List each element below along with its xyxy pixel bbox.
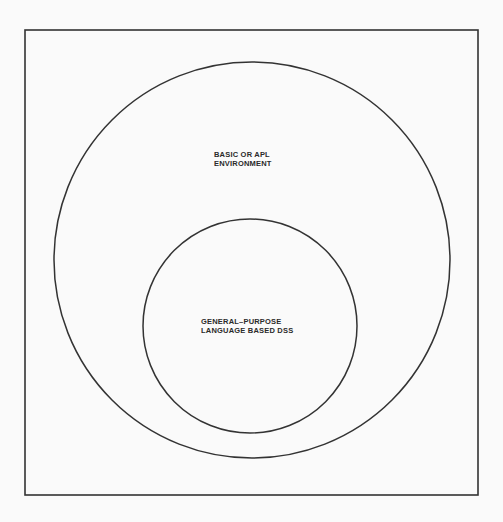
nested-circles-diagram: BASIC OR APL ENVIRONMENT GENERAL–PURPOSE… [0,0,503,522]
inner-label-line-2: LANGUAGE BASED DSS [201,326,293,335]
outer-label-line-1: BASIC OR APL [214,150,270,159]
inner-label-line-1: GENERAL–PURPOSE [201,317,282,326]
outer-label-line-2: ENVIRONMENT [214,159,272,168]
outer-circle-label: BASIC OR APL ENVIRONMENT [214,150,272,168]
outer-circle-basic-apl-environment [54,62,450,458]
inner-circle-label: GENERAL–PURPOSE LANGUAGE BASED DSS [201,317,293,335]
frame-border [25,30,478,495]
